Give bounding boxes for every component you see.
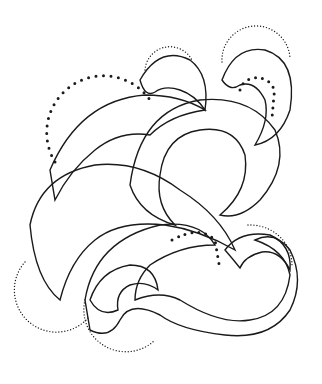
ribbon-left-band [50, 95, 205, 200]
dotted-arc-bottom-left [14, 262, 88, 332]
ribbon-middle-swoop [30, 164, 235, 300]
ribbon-lower-left-curl [90, 265, 158, 312]
swirling-ribbons-illustration [0, 0, 322, 384]
large-dotted-arc-left [47, 76, 152, 162]
ribbons [30, 49, 298, 335]
small-dotted-arc-top-right [222, 26, 290, 62]
ribbon-lower-s [85, 224, 298, 336]
dotted-arcs [14, 26, 292, 352]
ribbon-top-right-curl [222, 49, 292, 145]
ribbon-top-center-curl [140, 56, 206, 111]
dotted-arc-bottom-center [84, 300, 155, 352]
ribbon-central-loop [130, 99, 280, 225]
